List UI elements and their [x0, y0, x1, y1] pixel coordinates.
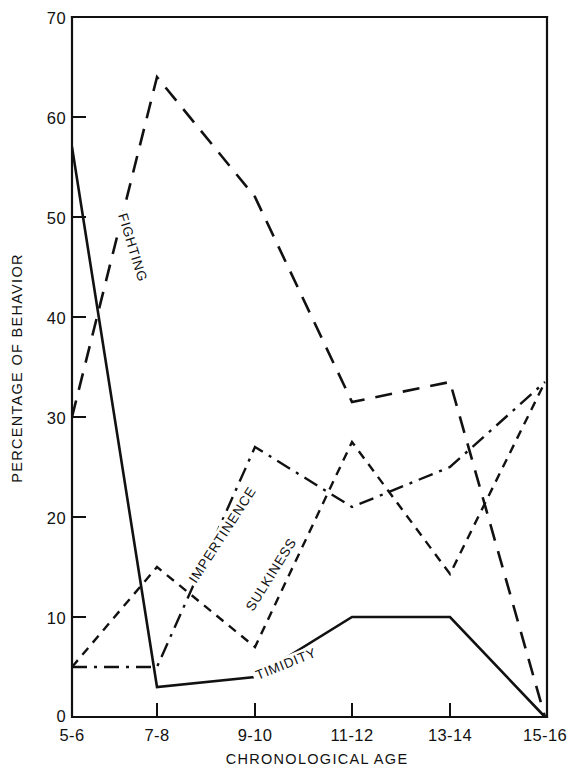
y-tick-label-10: 10: [47, 609, 66, 627]
y-tick-label-40: 40: [47, 309, 66, 327]
series-line-fighting: [72, 77, 545, 717]
y-tick-label-70: 70: [47, 9, 66, 27]
y-tick-label-30: 30: [47, 409, 66, 427]
series-label-fighting: FIGHTING: [115, 211, 150, 283]
chart-figure: 70 60 50 40 30 20 10 0 5-6 7-8 9-10 11-1…: [0, 0, 568, 770]
axis-frame: [72, 17, 547, 717]
x-tick-label-5-6: 5-6: [59, 726, 84, 744]
series-group: [72, 77, 545, 717]
series-line-timidity: [72, 147, 545, 717]
series-label-impertinence: IMPERTINENCE: [186, 484, 259, 586]
series-line-impertinence: [72, 382, 545, 667]
y-axis-title: PERCENTAGE OF BEHAVIOR: [9, 253, 25, 482]
series-line-sulkiness: [72, 382, 545, 667]
series-label-timidity: TIMIDITY: [254, 645, 319, 683]
y-tick-label-0: 0: [56, 707, 66, 725]
y-tick-label-20: 20: [47, 509, 66, 527]
x-tick-label-13-14: 13-14: [428, 726, 472, 744]
axis-spines: [72, 17, 547, 717]
line-chart-plot: 70 60 50 40 30 20 10 0 5-6 7-8 9-10 11-1…: [0, 0, 568, 770]
x-tick-label-7-8: 7-8: [144, 726, 169, 744]
x-tick-label-11-12: 11-12: [331, 726, 374, 744]
y-tick-label-60: 60: [47, 109, 66, 127]
x-tick-labels: 5-6 7-8 9-10 11-12 13-14 15-16: [59, 726, 567, 744]
series-label-sulkiness: SULKINESS: [243, 535, 300, 613]
x-axis-title: CHRONOLOGICAL AGE: [226, 751, 409, 767]
y-tick-labels: 70 60 50 40 30 20 10 0: [47, 9, 66, 725]
x-tick-label-15-16: 15-16: [523, 726, 567, 744]
y-tick-label-50: 50: [47, 209, 66, 227]
x-tick-label-9-10: 9-10: [238, 726, 273, 744]
x-tick-marks: [157, 703, 450, 717]
